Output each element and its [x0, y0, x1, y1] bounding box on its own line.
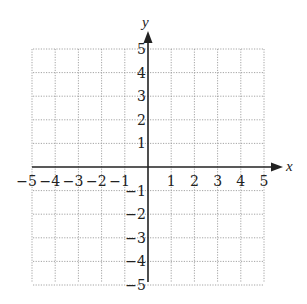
y-tick-label: 1: [137, 135, 146, 151]
y-tick-label: −2: [125, 206, 146, 222]
axes: [32, 31, 283, 282]
y-tick-label: 5: [137, 41, 146, 57]
x-axis-label: x: [285, 158, 293, 174]
y-axis-label: y: [140, 14, 149, 30]
y-tick-label: 2: [137, 112, 146, 128]
x-tick-label: −5: [16, 173, 37, 189]
x-axis-arrow-icon: [271, 163, 283, 172]
x-tick-label: −4: [40, 173, 61, 189]
y-tick-label: −5: [125, 277, 146, 293]
x-tick-label: 5: [260, 173, 269, 189]
x-tick-label: 3: [213, 173, 222, 189]
x-tick-label: 2: [190, 173, 199, 189]
y-tick-label: −3: [125, 230, 146, 246]
y-tick-label: 3: [137, 88, 146, 104]
y-tick-label: 4: [137, 65, 146, 81]
y-tick-label: −4: [125, 253, 146, 269]
coordinate-plane: x y −5−4−3−2−112345 54321−1−2−3−4−5: [0, 0, 307, 304]
y-tick-label: −1: [125, 183, 146, 199]
x-tick-label: 4: [236, 173, 245, 189]
x-tick-label: 1: [167, 173, 176, 189]
x-tick-label: −2: [86, 173, 107, 189]
x-tick-label: −3: [63, 173, 84, 189]
